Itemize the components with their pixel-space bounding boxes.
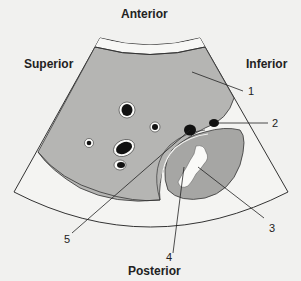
- callout-1: 1: [248, 85, 254, 97]
- label-anterior: Anterior: [121, 7, 168, 21]
- label-inferior: Inferior: [246, 57, 287, 71]
- ultrasound-diagram: [0, 0, 301, 281]
- callout-3: 3: [269, 222, 275, 234]
- callout-2: 2: [272, 117, 278, 129]
- label-superior: Superior: [24, 57, 73, 71]
- label-posterior: Posterior: [128, 264, 181, 278]
- callout-4: 4: [166, 251, 172, 263]
- callout-5: 5: [64, 233, 70, 245]
